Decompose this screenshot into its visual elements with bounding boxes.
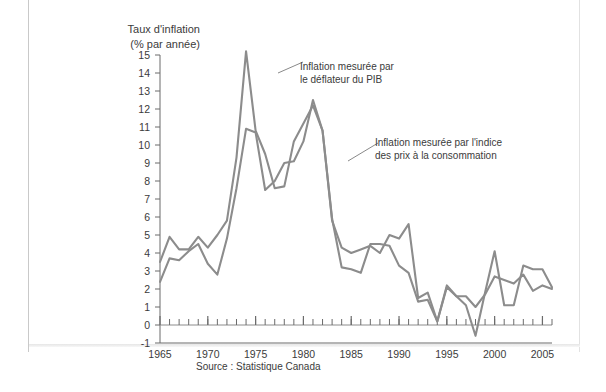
card-shadow <box>29 344 580 347</box>
y-tick-label: 2 <box>124 284 150 294</box>
y-tick-label: 14 <box>124 68 150 78</box>
y-tick-label: 3 <box>124 266 150 276</box>
series-line-cpi <box>160 100 552 321</box>
y-axis-ticks <box>155 55 160 343</box>
source-note: Source : Statistique Canada <box>196 361 321 372</box>
y-tick-label: 5 <box>124 230 150 240</box>
x-tick-label: 1965 <box>140 349 180 360</box>
annotation-deflator: Inflation mesurée par le déflateur du PI… <box>300 60 394 86</box>
annotation-cpi: Inflation mesurée par l'indice des prix … <box>375 136 502 162</box>
y-tick-label: 13 <box>124 86 150 96</box>
y-tick-label: 4 <box>124 248 150 258</box>
y-tick-label: 8 <box>124 176 150 186</box>
axis-lines <box>160 55 552 343</box>
x-tick-label: 1980 <box>283 349 323 360</box>
y-tick-label: 9 <box>124 158 150 168</box>
data-series-group <box>160 51 552 335</box>
inflation-chart-figure: Taux d'inflation (% par année) 151413121… <box>0 0 606 392</box>
x-tick-label: 1995 <box>427 349 467 360</box>
x-tick-label: 1970 <box>188 349 228 360</box>
y-tick-label: 6 <box>124 212 150 222</box>
y-tick-label: 12 <box>124 104 150 114</box>
y-tick-label: 1 <box>124 302 150 312</box>
y-tick-label: 15 <box>124 50 150 60</box>
y-tick-label: 0 <box>124 320 150 330</box>
x-tick-label: 1985 <box>331 349 371 360</box>
y-axis-title: Taux d'inflation (% par année) <box>96 22 200 51</box>
y-tick-label: 7 <box>124 194 150 204</box>
x-tick-label: 1990 <box>379 349 419 360</box>
x-tick-label: 1975 <box>236 349 276 360</box>
y-tick-label: 10 <box>124 140 150 150</box>
x-tick-label: 2005 <box>522 349 562 360</box>
leader-line-cpi <box>348 143 378 161</box>
y-tick-label: -1 <box>124 338 150 348</box>
y-tick-label: 11 <box>124 122 150 132</box>
plot-svg <box>160 55 552 343</box>
x-tick-label: 2000 <box>475 349 515 360</box>
plot-area: 1514131211109876543210-1 196519701975198… <box>160 55 552 343</box>
series-line-deflator <box>160 51 552 335</box>
